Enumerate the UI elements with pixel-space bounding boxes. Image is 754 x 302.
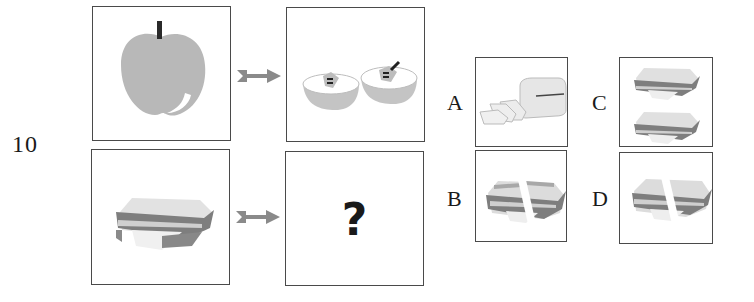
option-b[interactable]	[475, 150, 567, 242]
puzzle-box-apple	[92, 6, 231, 141]
sandwich-cut-diagonal-icon	[476, 151, 568, 243]
apple-icon	[93, 7, 232, 142]
option-d[interactable]	[619, 152, 713, 244]
bread-loaf-icon	[476, 58, 569, 148]
option-b-label: B	[447, 186, 462, 212]
option-d-label: D	[592, 186, 608, 212]
option-c[interactable]	[619, 57, 713, 147]
option-c-label: C	[592, 90, 607, 116]
sandwich-icon	[92, 150, 231, 286]
right-arrow-icon	[237, 68, 281, 84]
question-number: 10	[12, 131, 38, 158]
two-sandwiches-icon	[620, 58, 714, 148]
question-mark: ?	[286, 194, 423, 245]
puzzle-box-apple-halves	[286, 7, 425, 142]
option-a-label: A	[447, 90, 463, 116]
right-arrow-icon	[236, 209, 280, 225]
option-a[interactable]	[475, 57, 568, 147]
sandwich-cut-half-icon	[620, 153, 714, 245]
puzzle-box-unknown: ?	[285, 151, 424, 286]
apple-halves-icon	[287, 8, 426, 143]
puzzle-box-sandwich	[91, 149, 230, 285]
